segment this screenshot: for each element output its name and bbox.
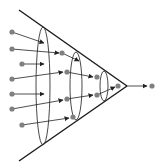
stage-ellipse-3 bbox=[100, 71, 108, 101]
arrow-icon bbox=[62, 53, 79, 61]
funnel-bottom-edge bbox=[19, 86, 127, 161]
arrow-icon bbox=[67, 95, 93, 99]
point-dot bbox=[64, 96, 69, 101]
point-dot bbox=[70, 114, 75, 119]
point-dot bbox=[9, 91, 14, 96]
funnel-top-edge bbox=[19, 10, 127, 86]
flow-arrows bbox=[12, 32, 147, 125]
point-dot bbox=[115, 83, 120, 88]
point-dot bbox=[9, 29, 14, 34]
point-dot bbox=[94, 74, 99, 79]
point-dot bbox=[94, 92, 99, 97]
point-dot bbox=[19, 61, 24, 66]
arrow-icon bbox=[12, 72, 63, 79]
arrow-icon bbox=[12, 100, 63, 109]
arrow-icon bbox=[12, 49, 59, 53]
point-dot bbox=[19, 122, 24, 127]
point-dot bbox=[149, 83, 154, 88]
point-dot bbox=[9, 46, 14, 51]
point-dot bbox=[9, 76, 14, 81]
stage-ellipse-1 bbox=[36, 27, 50, 145]
arrow-icon bbox=[22, 118, 69, 125]
funnel-outline bbox=[19, 10, 127, 161]
funnel-diagram bbox=[0, 0, 162, 165]
arrow-icon bbox=[67, 72, 93, 77]
point-dot bbox=[64, 69, 69, 74]
point-dot bbox=[9, 106, 14, 111]
funnel-stages bbox=[36, 27, 108, 145]
stage-ellipse-2 bbox=[70, 52, 82, 120]
point-dot bbox=[59, 50, 64, 55]
